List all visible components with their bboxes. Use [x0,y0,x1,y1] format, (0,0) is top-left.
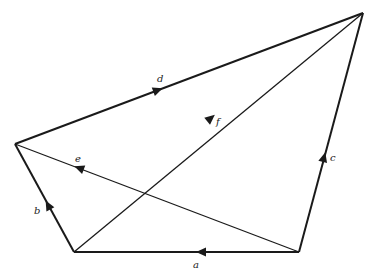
vector-e-line [15,144,299,252]
vector-c-line [299,13,363,252]
vector-b-label: b [34,205,40,216]
vector-f-label: f [215,116,222,127]
vector-e-label: e [75,153,81,164]
vector-f-line [74,13,363,252]
vector-d-line [15,13,363,144]
vector-diagram: a b c d e f [0,0,374,275]
vector-b-arrow-icon [42,198,55,211]
diagram-svg: a b c d e f [0,0,374,275]
vector-a-arrow-icon [196,248,206,257]
vector-a-label: a [193,259,199,270]
vector-c-arrow-icon [318,151,329,163]
vector-c-label: c [330,152,336,163]
vector-d-label: d [157,73,163,84]
vector-b-line [15,144,74,252]
vector-d-arrow-icon [152,84,165,96]
